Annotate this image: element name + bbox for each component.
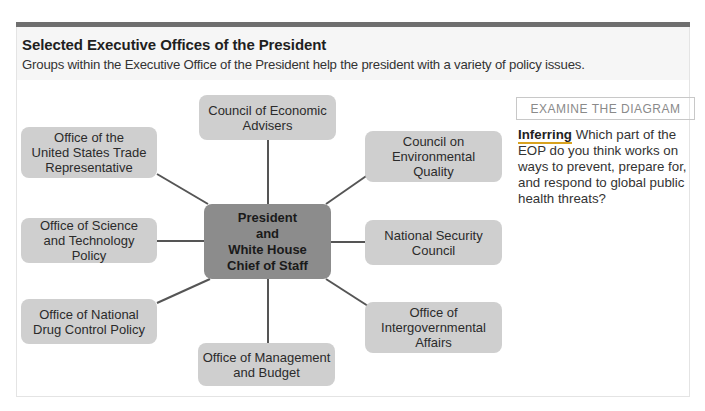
- node-science-technology-policy: Office of Science and Technology Policy: [21, 218, 157, 263]
- connector-ondcp: [157, 279, 210, 303]
- node-council-economic-advisers: Council of Economic Advisers: [199, 95, 336, 140]
- node-drug-control-policy: Office of National Drug Control Policy: [21, 299, 157, 344]
- question-keyword: Inferring: [518, 127, 572, 144]
- node-management-and-budget: Office of Management and Budget: [198, 343, 335, 386]
- inferring-question: Inferring Which part of the EOP do you t…: [518, 127, 688, 207]
- examine-diagram-label: EXAMINE THE DIAGRAM: [516, 97, 695, 120]
- node-president-chief-of-staff: President and White House Chief of Staff: [204, 204, 331, 279]
- node-intergovernmental-affairs: Office of Intergovernmental Affairs: [365, 302, 502, 353]
- connector-oia: [326, 279, 368, 306]
- connector-ustr: [157, 174, 208, 204]
- node-us-trade-representative: Office of the United States Trade Repres…: [21, 127, 157, 178]
- node-council-environmental-quality: Council on Environmental Quality: [365, 131, 502, 182]
- node-national-security-council: National Security Council: [365, 220, 502, 265]
